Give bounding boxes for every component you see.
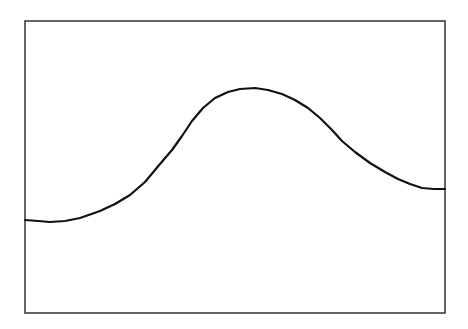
line-chart (0, 0, 468, 329)
data-line (25, 88, 445, 222)
plot-frame (25, 21, 445, 313)
